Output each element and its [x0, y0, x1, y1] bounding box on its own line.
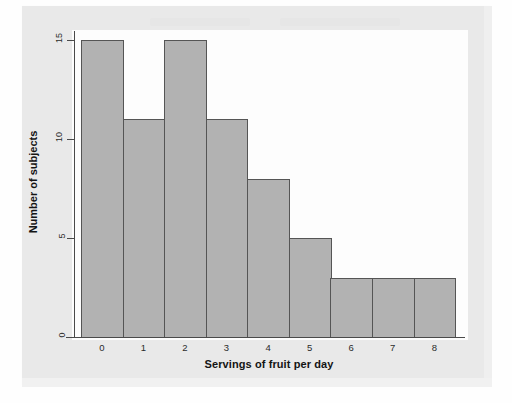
scan-artifact-1 [150, 18, 250, 26]
y-axis-title: Number of subjects [24, 92, 42, 272]
y-axis-tick [67, 139, 74, 140]
histogram-bar [123, 119, 166, 337]
histogram-bar [164, 40, 207, 337]
y-axis-tick-label-text: 5 [56, 233, 66, 238]
x-axis-line [66, 337, 465, 338]
y-axis-tick [67, 238, 74, 239]
x-axis-tick-label: 0 [81, 342, 123, 353]
histogram-bar [372, 278, 415, 337]
scan-artifact-2 [280, 18, 400, 26]
y-axis-tick-label: 15 [0, 33, 64, 43]
page-right-shadow [484, 6, 492, 385]
y-axis-tick-label-text: 15 [54, 33, 64, 43]
x-axis-tick-label: 7 [372, 342, 414, 353]
histogram-bar [81, 40, 124, 337]
x-axis-tick-label: 1 [123, 342, 165, 353]
x-axis-tick-label: 4 [247, 342, 289, 353]
screenshot-root: 051015 012345678 Servings of fruit per d… [0, 0, 512, 403]
y-axis-tick [67, 40, 74, 41]
x-axis-tick-labels: 012345678 [81, 342, 455, 353]
x-axis-tick-label: 8 [414, 342, 456, 353]
y-axis-title-text: Number of subjects [27, 131, 39, 234]
x-axis-tick-label: 3 [206, 342, 248, 353]
y-axis-tick-label-text: 0 [56, 332, 66, 337]
x-axis-title: Servings of fruit per day [74, 358, 464, 370]
histogram-bar [414, 278, 457, 337]
histogram-bar [206, 119, 249, 337]
histogram-bar [289, 238, 332, 337]
x-axis-tick-label: 2 [164, 342, 206, 353]
y-axis-line [74, 31, 75, 338]
y-axis-tick [67, 337, 74, 338]
y-axis-tick-label: 0 [0, 330, 64, 340]
y-axis-tick-label-text: 10 [54, 132, 64, 142]
histogram-bars [81, 30, 455, 337]
histogram-bar [330, 278, 373, 337]
histogram-bar [247, 179, 290, 337]
page-bottom-shadow [22, 378, 492, 387]
x-axis-tick-label: 6 [330, 342, 372, 353]
x-axis-tick-label: 5 [289, 342, 331, 353]
